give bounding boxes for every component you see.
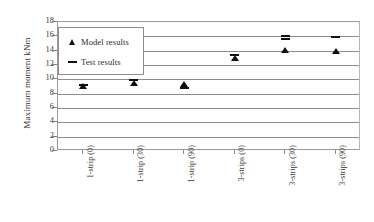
y-tick-label: 14 (24, 45, 54, 54)
data-point-test (281, 35, 290, 37)
legend-entry-model: Model results (66, 36, 129, 48)
x-tick-mark (133, 150, 134, 154)
x-tick-label: 3-strips (0) (237, 145, 246, 215)
x-tick-mark (284, 150, 285, 154)
data-point-test (230, 54, 239, 56)
legend-entry-test: Test results (66, 56, 121, 68)
legend-label-test: Test results (81, 57, 121, 67)
y-tick-label: 0 (24, 145, 54, 154)
data-point-test (129, 79, 138, 81)
data-point-test (180, 87, 189, 89)
y-tick-mark (52, 150, 57, 151)
y-tick-label: 12 (24, 59, 54, 68)
x-tick-label: 1-strip (90) (187, 145, 196, 215)
y-tick-label: 18 (24, 16, 54, 25)
chart-figure: Maximum moment kNm 024681012141618 1-str… (0, 0, 374, 222)
legend-label-model: Model results (81, 37, 129, 47)
data-point-model (130, 80, 138, 86)
y-tick-label: 8 (24, 88, 54, 97)
x-tick-label: 1-strip (30) (136, 145, 145, 215)
gridline (58, 79, 359, 80)
chart-legend: Model results Test results (58, 27, 144, 75)
y-tick-label: 10 (24, 73, 54, 82)
data-point-model (281, 47, 289, 53)
data-point-model (332, 48, 340, 54)
x-tick-label: 1-strip (0) (86, 145, 95, 215)
gridline (58, 137, 359, 138)
x-tick-label: 3-strips (30) (288, 145, 297, 215)
y-tick-label: 2 (24, 131, 54, 140)
x-tick-mark (183, 150, 184, 154)
x-tick-mark (82, 150, 83, 154)
gridline (58, 94, 359, 95)
triangle-up-icon (66, 39, 78, 45)
data-point-test (281, 38, 290, 40)
data-point-test (331, 36, 340, 38)
data-point-model (231, 55, 239, 61)
x-tick-mark (335, 150, 336, 154)
gridline (58, 108, 359, 109)
x-tick-label: 3-strips (90) (338, 145, 347, 215)
y-tick-label: 4 (24, 116, 54, 125)
x-tick-mark (234, 150, 235, 154)
y-tick-label: 16 (24, 30, 54, 39)
data-point-test (79, 84, 88, 86)
y-tick-label: 6 (24, 102, 54, 111)
horizontal-dash-icon (66, 61, 78, 63)
gridline (58, 122, 359, 123)
